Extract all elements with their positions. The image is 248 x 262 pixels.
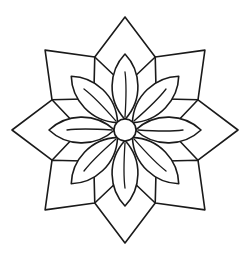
floral-rosette-figure: Eight-Petal Floral Rosette [0,0,248,262]
artwork-container: Eight-Petal Floral Rosette [0,0,248,262]
center-circle [114,119,136,141]
flower-center-group [114,119,136,141]
